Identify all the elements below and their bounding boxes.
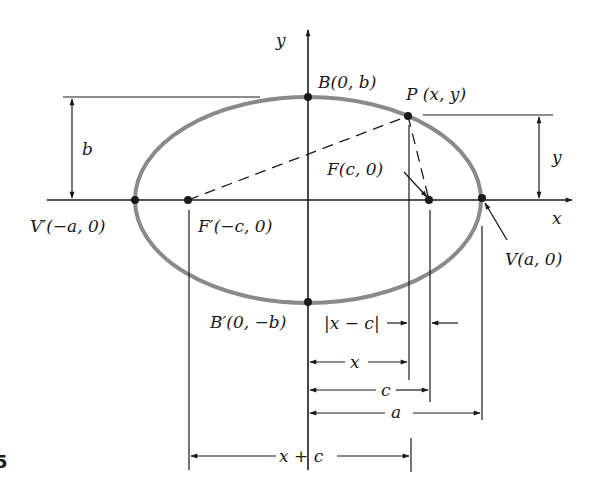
c-dimension-label: c — [381, 380, 391, 400]
abs-x-minus-c-label: |x − c| — [324, 313, 380, 333]
point-b — [304, 93, 312, 101]
figure-number-fragment: 5 — [0, 451, 8, 472]
label-v: V(a, 0) — [505, 249, 562, 269]
label-f: F(c, 0) — [326, 159, 383, 179]
x-dimension-label: x — [350, 352, 360, 372]
label-v-prime: V′(−a, 0) — [30, 216, 105, 236]
label-b-prime: B′(0, −b) — [209, 312, 286, 332]
point-v — [478, 194, 486, 202]
b-dimension-label: b — [82, 139, 93, 159]
x-plus-c-label: x + c — [279, 446, 324, 466]
label-f-prime: F′(−c, 0) — [197, 216, 272, 236]
point-v-prime — [131, 196, 139, 204]
point-p — [404, 112, 412, 120]
v-leader-arrow — [485, 203, 507, 240]
a-dimension-label: a — [391, 402, 401, 422]
y-axis-label: y — [275, 30, 286, 50]
x-axis-label: x — [552, 208, 562, 228]
label-b: B(0, b) — [317, 72, 376, 92]
ellipse-diagram: y x b y |x − c| x c a x + c B(0, b) P — [0, 0, 594, 498]
label-p: P (x, y) — [405, 84, 466, 104]
focal-radius-left — [188, 116, 408, 200]
point-b-prime — [304, 298, 312, 306]
point-f — [425, 196, 433, 204]
point-f-prime — [184, 196, 192, 204]
y-dimension-label: y — [551, 147, 562, 167]
